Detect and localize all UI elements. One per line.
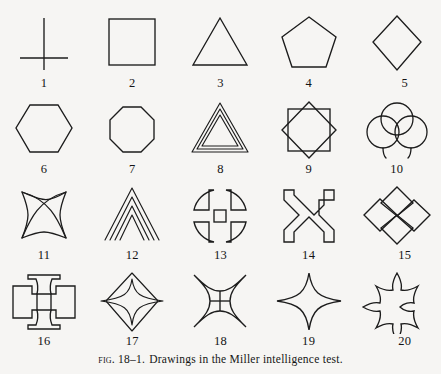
drawing-number: 4 xyxy=(305,76,312,90)
x-with-square-ends-icon xyxy=(273,184,345,248)
drawing-number: 8 xyxy=(217,162,224,176)
drawing-number: 1 xyxy=(41,76,48,90)
star-over-diamond-icon xyxy=(96,270,168,334)
hexagon-icon xyxy=(8,98,80,162)
drawings-row-4: 16 17 18 xyxy=(0,262,441,348)
octagon-icon xyxy=(96,98,168,162)
drawing-item-1: 1 xyxy=(1,4,87,90)
drawing-item-11: 11 xyxy=(1,176,87,262)
pentagon-icon xyxy=(273,12,345,76)
drawing-number: 17 xyxy=(126,334,139,348)
figure-caption: Fig.18–1.Drawings in the Miller intellig… xyxy=(0,352,441,367)
circle-with-grid-cross-icon xyxy=(184,184,256,248)
three-overlapping-circles-icon xyxy=(361,98,433,162)
drawing-item-5: 5 xyxy=(354,4,440,90)
crossed-arcs-star-icon xyxy=(8,184,80,248)
cross-pattee-concave-icon xyxy=(361,270,433,334)
drawing-item-10: 10 xyxy=(354,90,440,176)
drawing-number: 18 xyxy=(214,334,227,348)
drawing-number: 16 xyxy=(38,334,51,348)
drawing-number: 2 xyxy=(129,76,136,90)
figure-caption-number: 18–1. xyxy=(118,353,145,365)
drawing-number: 7 xyxy=(129,162,136,176)
figure-plate: 1 2 3 xyxy=(0,0,441,374)
drawing-item-18: 18 xyxy=(177,262,263,348)
drawing-item-17: 17 xyxy=(89,262,175,348)
drawing-number: 10 xyxy=(390,162,403,176)
drawing-number: 15 xyxy=(398,248,411,262)
drawing-number: 20 xyxy=(398,334,411,348)
drawing-number: 11 xyxy=(38,248,51,262)
quartered-concave-star-icon xyxy=(184,270,256,334)
drawing-number: 9 xyxy=(305,162,312,176)
drawing-item-16: 16 xyxy=(1,262,87,348)
drawing-item-20: 20 xyxy=(354,262,440,348)
drawing-item-7: 7 xyxy=(89,90,175,176)
drawings-row-3: 11 12 xyxy=(0,176,441,262)
drawing-number: 14 xyxy=(302,248,315,262)
drawing-item-4: 4 xyxy=(266,4,352,90)
overlapping-squares-star-icon xyxy=(273,98,345,162)
nested-chevrons-icon xyxy=(96,184,168,248)
drawing-number: 5 xyxy=(402,76,409,90)
cross-line-figure-icon xyxy=(8,12,80,76)
concave-four-point-star-icon xyxy=(273,270,345,334)
drawing-number: 3 xyxy=(217,76,224,90)
figure-caption-label: Fig. xyxy=(98,352,115,366)
drawings-grid: 1 2 3 xyxy=(0,4,441,348)
drawing-number: 12 xyxy=(126,248,139,262)
nested-triangles-icon xyxy=(184,98,256,162)
triangle-icon xyxy=(184,12,256,76)
drawing-item-3: 3 xyxy=(177,4,263,90)
drawing-number: 19 xyxy=(302,334,315,348)
cross-pattee-flared-icon xyxy=(8,270,80,334)
drawing-item-13: 13 xyxy=(177,176,263,262)
drawing-item-8: 8 xyxy=(177,90,263,176)
figure-caption-text: Drawings in the Miller intelligence test… xyxy=(149,353,343,365)
drawing-number: 6 xyxy=(41,162,48,176)
drawings-row-1: 1 2 3 xyxy=(0,4,441,90)
drawing-number: 13 xyxy=(214,248,227,262)
diamond-icon xyxy=(361,12,433,76)
drawing-item-9: 9 xyxy=(266,90,352,176)
four-diamond-cluster-icon xyxy=(361,184,433,248)
drawing-item-15: 15 xyxy=(354,176,440,262)
drawings-row-2: 6 7 8 xyxy=(0,90,441,176)
drawing-item-14: 14 xyxy=(266,176,352,262)
drawing-item-6: 6 xyxy=(1,90,87,176)
drawing-item-2: 2 xyxy=(89,4,175,90)
drawing-item-12: 12 xyxy=(89,176,175,262)
square-icon xyxy=(96,12,168,76)
drawing-item-19: 19 xyxy=(266,262,352,348)
